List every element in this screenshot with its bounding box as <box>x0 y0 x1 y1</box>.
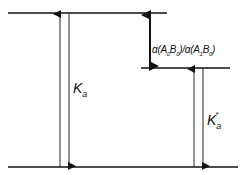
energy-diagram <box>0 0 244 175</box>
alpha-ratio-label: α(A0B0)/α(A1B0) <box>152 44 215 57</box>
ka-star-label: Ka* <box>207 112 224 131</box>
ka-label: Ka <box>73 80 87 99</box>
